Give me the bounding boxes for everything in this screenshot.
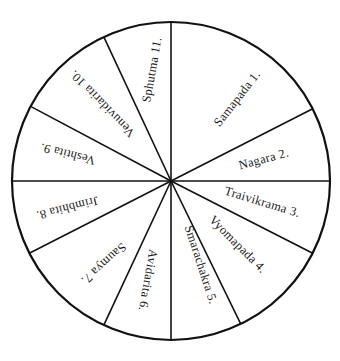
sector-wheel-diagram: Samapada 1. Nagara 2. Traivikrama 3. Vyo… <box>0 0 340 361</box>
sector-label-veshtita: Veshtita 9. <box>39 141 97 168</box>
sector-label-sphutma: Sphutma 11. <box>139 36 164 103</box>
sector-label-smarachakra: Smarachakra 5. <box>182 224 221 306</box>
sector-label-samapada: Samapada 1. <box>211 68 263 130</box>
sector-label-traivikrama: Traivikrama 3. <box>223 184 302 220</box>
sector-label-nagara: Nagara 2. <box>237 146 290 173</box>
sector-label-jrimbhita: Jrimbhita 8. <box>35 194 100 223</box>
sector-label-avidarita: Avidarita 6. <box>136 248 161 312</box>
sector-label-venuvidarita: Venuvidarita 10. <box>67 67 138 140</box>
spokes <box>12 22 330 340</box>
sector-label-vyomapada: Vyomapada 4. <box>206 213 269 276</box>
sector-label-saumya: Saumya 7. <box>78 240 129 288</box>
spoke-line <box>171 181 241 324</box>
